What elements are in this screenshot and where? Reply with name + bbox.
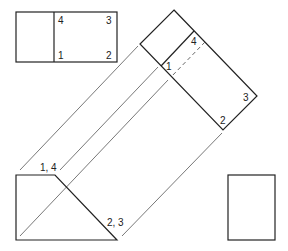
top-view-label-3: 3 bbox=[106, 15, 112, 26]
top-view bbox=[16, 12, 117, 62]
aux-view-label-3: 3 bbox=[243, 92, 249, 103]
projection-line bbox=[60, 67, 158, 170]
aux-view-label-4: 4 bbox=[191, 36, 197, 47]
orthographic-projection-diagram: 4 3 1 2 4 1 3 2 1, 4 2, 3 bbox=[0, 0, 288, 251]
side-view-outline bbox=[228, 175, 275, 240]
front-view bbox=[16, 175, 117, 240]
auxiliary-view bbox=[140, 10, 257, 130]
side-view bbox=[228, 175, 275, 240]
projection-lines bbox=[20, 46, 222, 236]
projection-line bbox=[20, 46, 138, 170]
projection-line bbox=[20, 80, 168, 236]
aux-view-label-1: 1 bbox=[166, 61, 172, 72]
aux-view-label-2: 2 bbox=[220, 115, 226, 126]
front-view-label-1-4: 1, 4 bbox=[40, 162, 57, 173]
front-view-label-2-3: 2, 3 bbox=[107, 217, 124, 228]
projection-line bbox=[122, 133, 222, 236]
auxiliary-view-outline bbox=[140, 10, 257, 130]
top-view-label-1: 1 bbox=[58, 50, 64, 61]
front-view-outline bbox=[16, 175, 117, 240]
hidden-line bbox=[171, 42, 205, 77]
top-view-label-2: 2 bbox=[106, 50, 112, 61]
top-view-label-4: 4 bbox=[58, 15, 64, 26]
top-view-outline bbox=[16, 12, 117, 62]
